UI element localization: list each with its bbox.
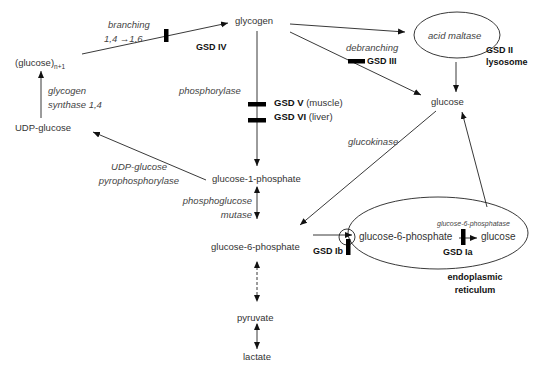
node-glucose-6-phosphate: glucose-6-phosphate bbox=[211, 242, 300, 252]
label-gsd-vi-note: (liver) bbox=[309, 111, 333, 122]
enzyme-pgm-line2: mutase bbox=[221, 209, 252, 220]
block-gsd-ia bbox=[461, 229, 466, 245]
block-gsd-iii bbox=[348, 59, 365, 64]
label-gsd-v: GSD V (muscle) bbox=[274, 98, 343, 108]
node-glycogen: glycogen bbox=[235, 16, 273, 26]
node-glucose-n1: (glucose)n+1 bbox=[15, 58, 65, 70]
node-glucose-n1-text: (glucose) bbox=[15, 57, 54, 68]
node-lactate: lactate bbox=[243, 352, 271, 362]
label-gsd-v-note: (muscle) bbox=[306, 97, 342, 108]
block-gsd-ib bbox=[346, 239, 351, 255]
node-er-glucose-6-phosphate: glucose-6-phosphate bbox=[359, 232, 452, 242]
enzyme-phosphorylase: phosphorylase bbox=[179, 86, 241, 96]
label-gsd-vi: GSD VI (liver) bbox=[274, 112, 333, 122]
enzyme-udp-glucose-pyrophosphorylase: UDP-glucosepyrophosphorylase bbox=[96, 160, 179, 188]
enzyme-branching-line2: 1,4 →1,6 bbox=[104, 33, 143, 44]
label-gsd-iii: GSD III bbox=[367, 57, 397, 66]
label-gsd-ib: GSD Ib bbox=[313, 247, 343, 256]
label-gsd-ii: GSD II bbox=[486, 46, 513, 55]
enzyme-branching-line1: branching bbox=[108, 19, 150, 30]
label-er-line1: endoplasmic bbox=[447, 272, 502, 282]
node-er-glucose: glucose bbox=[481, 232, 515, 242]
label-lysosome: lysosome bbox=[486, 58, 528, 67]
label-gsd-vi-name: GSD VI bbox=[274, 111, 306, 122]
node-glucose-1-phosphate: glucose-1-phosphate bbox=[212, 174, 301, 184]
arrow-glucokinase bbox=[300, 111, 436, 225]
enzyme-glucose-6-phosphatase: glucose-6-phosphatase bbox=[437, 220, 510, 227]
enzyme-udp-line1: UDP-glucose bbox=[111, 161, 179, 172]
enzyme-gs-line2: synthase 1,4 bbox=[48, 99, 102, 110]
node-udp-glucose: UDP-glucose bbox=[15, 123, 71, 133]
enzyme-branching: branching1,4 →1,6 bbox=[104, 18, 150, 46]
enzyme-udp-line2: pyrophosphorylase bbox=[99, 175, 179, 186]
enzyme-glucokinase: glucokinase bbox=[348, 137, 398, 147]
node-glucose: glucose bbox=[431, 97, 464, 107]
enzyme-acid-maltase: acid maltase bbox=[428, 31, 481, 41]
label-gsd-ia: GSD Ia bbox=[443, 248, 473, 257]
enzyme-glycogen-synthase: glycogensynthase 1,4 bbox=[48, 84, 102, 112]
label-endoplasmic-reticulum: endoplasmicreticulum bbox=[447, 271, 502, 297]
arrow-er-glucose-export bbox=[462, 112, 487, 207]
label-gsd-iv: GSD IV bbox=[196, 43, 227, 52]
block-gsd-vi bbox=[248, 118, 266, 123]
node-pyruvate: pyruvate bbox=[237, 313, 273, 323]
label-er-line2: reticulum bbox=[455, 285, 496, 295]
arrow-to-acid-maltase bbox=[290, 24, 405, 32]
enzyme-gs-line1: glycogen bbox=[48, 85, 86, 96]
enzyme-debranching: debranching bbox=[346, 43, 398, 53]
block-gsd-iv bbox=[164, 29, 169, 42]
enzyme-phosphoglucose-mutase: phosphoglucosemutase bbox=[182, 194, 252, 222]
node-glucose-n1-sub: n+1 bbox=[54, 63, 65, 70]
block-gsd-v bbox=[248, 102, 266, 107]
enzyme-pgm-line1: phosphoglucose bbox=[183, 195, 252, 206]
label-gsd-v-name: GSD V bbox=[274, 97, 304, 108]
